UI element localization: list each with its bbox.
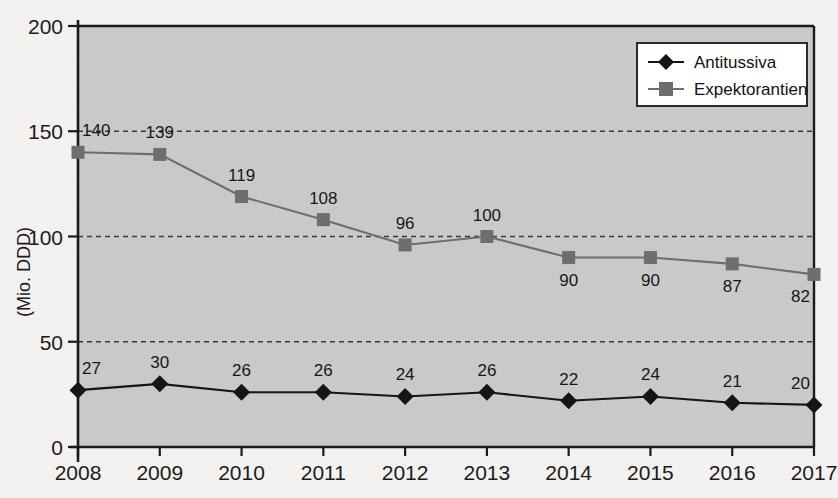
x-tick-label-2017: 2017 bbox=[791, 461, 838, 484]
data-point-marker bbox=[480, 230, 493, 243]
x-tick-label-2012: 2012 bbox=[382, 461, 429, 484]
y-axis-title: (Mio. DDD) bbox=[14, 227, 34, 317]
data-label: 90 bbox=[641, 271, 660, 290]
square-marker-icon bbox=[659, 82, 673, 96]
data-label: 26 bbox=[232, 361, 251, 380]
data-label: 22 bbox=[559, 370, 578, 389]
data-label: 24 bbox=[641, 365, 660, 384]
x-tick-label-2010: 2010 bbox=[218, 461, 265, 484]
y-tick-label-0: 0 bbox=[51, 436, 63, 459]
data-label: 26 bbox=[477, 361, 496, 380]
data-label: 82 bbox=[791, 287, 810, 306]
data-label: 100 bbox=[473, 206, 501, 225]
legend-label-antitussiva: Antitussiva bbox=[694, 53, 777, 72]
data-label: 87 bbox=[723, 277, 742, 296]
y-axis-ticks: 050100150200 bbox=[28, 15, 78, 459]
data-point-marker bbox=[808, 268, 821, 281]
x-tick-label-2011: 2011 bbox=[301, 461, 346, 484]
x-axis-ticks: 2008200920102011201220132014201520162017 bbox=[55, 447, 838, 484]
data-point-marker bbox=[644, 251, 657, 264]
data-point-marker bbox=[317, 213, 330, 226]
data-label: 30 bbox=[150, 353, 169, 372]
chart-page: 050100150200 200820092010201120122013201… bbox=[0, 0, 838, 498]
data-point-marker bbox=[235, 190, 248, 203]
chart-legend[interactable]: Antitussiva Expektorantien bbox=[637, 43, 807, 106]
data-label: 96 bbox=[396, 214, 415, 233]
data-label: 139 bbox=[146, 123, 174, 142]
data-label: 108 bbox=[309, 189, 337, 208]
x-tick-label-2009: 2009 bbox=[136, 461, 183, 484]
x-tick-label-2013: 2013 bbox=[464, 461, 511, 484]
data-label: 90 bbox=[559, 271, 578, 290]
data-point-marker bbox=[72, 146, 85, 159]
data-label: 21 bbox=[723, 372, 742, 391]
x-tick-label-2008: 2008 bbox=[55, 461, 102, 484]
data-point-marker bbox=[153, 148, 166, 161]
data-point-marker bbox=[399, 238, 412, 251]
y-tick-label-150: 150 bbox=[28, 120, 63, 143]
y-tick-label-50: 50 bbox=[40, 331, 63, 354]
data-label: 24 bbox=[396, 365, 415, 384]
x-tick-label-2014: 2014 bbox=[545, 461, 592, 484]
data-point-marker bbox=[726, 257, 739, 270]
y-tick-label-200: 200 bbox=[28, 15, 63, 38]
data-point-marker bbox=[562, 251, 575, 264]
line-chart: 050100150200 200820092010201120122013201… bbox=[0, 0, 838, 498]
data-label: 140 bbox=[82, 121, 110, 140]
data-label: 27 bbox=[82, 359, 101, 378]
data-label: 119 bbox=[228, 166, 255, 185]
legend-label-expektorantien: Expektorantien bbox=[694, 80, 807, 99]
data-label: 20 bbox=[791, 374, 810, 393]
data-label: 26 bbox=[314, 361, 333, 380]
x-tick-label-2016: 2016 bbox=[709, 461, 756, 484]
x-tick-label-2015: 2015 bbox=[627, 461, 674, 484]
